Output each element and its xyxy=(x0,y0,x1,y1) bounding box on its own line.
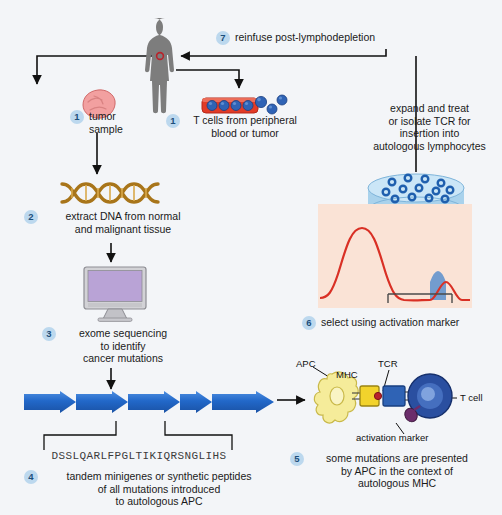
annotation-expand-and-treat: expand and treat or isolate TCR for inse… xyxy=(362,102,497,152)
label-tcr: TCR xyxy=(378,358,398,369)
step-tcells-source: 1 T cells from peripheral blood or tumor xyxy=(166,114,306,139)
step-badge-6: 6 xyxy=(302,316,316,330)
step-badge-5: 5 xyxy=(290,452,304,466)
step-label-mutations-presented: some mutations are presented by APC in t… xyxy=(309,452,485,490)
step-badge-7: 7 xyxy=(216,31,230,45)
label-mhc: MHC xyxy=(336,369,358,380)
step-label-select-activation-marker: select using activation marker xyxy=(321,316,459,329)
step-select-activation-marker: 6 select using activation marker xyxy=(302,316,492,330)
tandem-minigene-bar xyxy=(24,390,278,414)
computer-monitor-icon xyxy=(82,265,148,323)
step-label-tumor-sample: tumor sample xyxy=(89,110,149,135)
step-badge-4: 4 xyxy=(24,470,38,484)
bracket-left xyxy=(44,421,116,450)
step-label-tcells-source: T cells from peripheral blood or tumor xyxy=(185,114,305,139)
label-t-cell: T cell xyxy=(460,392,483,403)
dna-helix-icon xyxy=(58,178,164,208)
step-tumor-sample: 1 tumor sample xyxy=(70,110,154,135)
apc-nucleus xyxy=(330,387,344,405)
gated-population-fill xyxy=(390,271,464,300)
label-apc: APC xyxy=(296,358,316,369)
step-mutations-presented: 5 some mutations are presented by APC in… xyxy=(290,452,490,490)
label-activation-marker: activation marker xyxy=(356,432,428,443)
arrow-reinfuse-to-body xyxy=(181,49,386,56)
step-extract-dna: 2 extract DNA from normal and malignant … xyxy=(24,210,204,235)
step-label-extract-dna: extract DNA from normal and malignant ti… xyxy=(43,210,203,235)
step-label-exome-sequencing: exome sequencing to identify cancer muta… xyxy=(61,327,185,365)
step-label-reinfuse: reinfuse post-lymphodepletion xyxy=(235,31,375,44)
peptide-antigen xyxy=(374,392,381,399)
peptide-sequence: DSSLQARLFPGLTIKIQRSNGLIHS xyxy=(44,450,234,462)
facs-histogram-plot xyxy=(318,204,472,308)
apc-tcell-synapse-icon xyxy=(310,368,456,432)
step-badge-1b: 1 xyxy=(166,114,180,128)
step-badge-2: 2 xyxy=(24,210,38,224)
diagram-canvas: 1 tumor sample 1 T cells from peripheral… xyxy=(0,0,502,515)
facs-histogram-panel xyxy=(318,204,472,308)
tcr-molecule xyxy=(383,386,405,406)
arrow-body-to-tumor xyxy=(37,56,152,84)
step-badge-1a: 1 xyxy=(70,110,84,124)
step-badge-3: 3 xyxy=(42,327,56,341)
facs-curve xyxy=(320,228,470,300)
bracket-right xyxy=(165,421,232,450)
step-label-tandem-minigenes: tandem minigenes or synthetic peptides o… xyxy=(43,470,275,508)
step-exome-sequencing: 3 exome sequencing to identify cancer mu… xyxy=(42,327,192,365)
step-reinfuse: 7 reinfuse post-lymphodepletion xyxy=(216,31,375,45)
step-tandem-minigenes: 4 tandem minigenes or synthetic peptides… xyxy=(24,470,279,508)
